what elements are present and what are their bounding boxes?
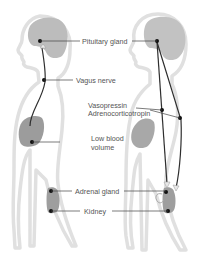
label-low-blood-line2: volume	[91, 143, 114, 152]
label-pituitary-gland: Pituitary gland	[82, 37, 128, 46]
right-figure	[125, 14, 186, 250]
label-low-blood-line1: Low blood	[91, 134, 124, 143]
adrenocorticotropin-arrowhead-icon	[173, 185, 179, 191]
label-kidney: Kidney	[84, 207, 106, 216]
diagram-canvas: Pituitary gland Vagus nerve Vasopressin …	[0, 0, 206, 264]
left-figure	[13, 16, 76, 248]
right-adrenal-dot	[164, 190, 168, 194]
label-adrenal-gland: Adrenal gland	[75, 187, 119, 196]
label-vagus-nerve: Vagus nerve	[76, 76, 116, 85]
label-adrenocorticotropin: Adrenocorticotropin	[88, 109, 150, 118]
